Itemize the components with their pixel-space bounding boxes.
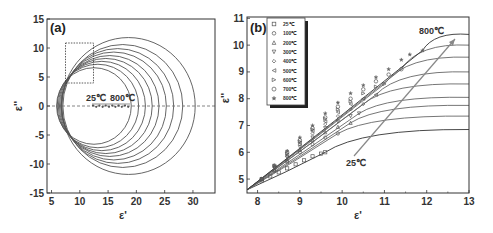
marker-triangle-down [349,115,352,118]
data-point [114,106,116,108]
x-tick-label: 15 [103,196,115,207]
annotation-800c: 800℃ [110,93,135,103]
panel-label: (b) [250,20,267,35]
y-axis-label: ε'' [12,100,24,111]
y-tick-label: 9 [238,66,244,77]
data-point [98,105,100,107]
x-tick-label: 10 [74,196,86,207]
y-tick-label: 10 [233,40,245,51]
data-point [118,105,120,107]
y-tick-label: 8 [238,93,244,104]
panel-label: (a) [50,20,66,35]
x-tick-label: 9 [297,196,303,207]
marker-star [362,83,366,87]
fit-curve-300℃ [247,97,469,190]
legend: 25℃100℃200℃300℃400℃500℃600℃700℃800℃ [267,18,308,108]
legend-label: 700℃ [283,86,297,92]
y-tick-label: 10 [33,43,45,54]
x-axis-label: ε' [354,209,362,221]
legend-label: 100℃ [283,30,297,36]
marker-star [374,75,378,78]
marker-hexagon [387,73,391,77]
legend-label: 300℃ [283,49,297,55]
y-tick-label: -5 [35,130,44,141]
marker-star [408,53,412,57]
x-tick-label: 13 [463,196,475,207]
x-axis-label: ε' [119,209,127,221]
y-tick-label: -15 [30,188,45,199]
panel-a: 25℃ 800℃ 51015202530-15-10-5051015 (a) ε… [12,14,215,222]
marker-triangle-right [374,85,377,88]
y-tick-label: 5 [238,174,244,185]
data-point [95,106,97,108]
legend-label: 500℃ [283,68,297,74]
x-tick-label: 10 [337,196,349,207]
data-point [105,105,107,107]
y-tick-label: 11 [233,13,244,24]
annotation-25c: 25℃ [346,158,366,168]
y-tick-label: -10 [30,159,45,170]
marker-hexagon [362,88,366,92]
legend-label: 800℃ [283,95,297,101]
panel-b: 800℃ 25℃ 25℃100℃200℃300℃400℃500℃600℃700℃… [219,13,475,221]
annotation-800c: 800℃ [419,26,444,36]
figure: 25℃ 800℃ 51015202530-15-10-5051015 (a) ε… [0,0,493,233]
x-tick-label: 12 [421,196,433,207]
y-tick-label: 0 [38,101,44,112]
fit-curve-200℃ [247,105,469,189]
fit-curve-100℃ [247,116,469,190]
legend-label: 200℃ [283,40,297,46]
y-tick-label: 7 [238,120,244,131]
legend-label: 25℃ [283,21,295,27]
marker-star [349,91,353,95]
marker-star [400,58,404,62]
legend-label: 600℃ [283,77,297,83]
y-tick-label: 5 [38,72,44,83]
marker-hexagon [374,80,378,84]
data-point [124,105,126,107]
x-tick-label: 11 [379,196,390,207]
data-point [108,106,110,108]
x-tick-label: 5 [49,196,55,207]
marker-hexagon [349,97,353,101]
data-point [92,105,94,107]
marker-triangle-right [362,92,365,95]
x-tick-label: 8 [255,196,261,207]
marker-square [286,167,289,170]
marker-hexagon [336,105,340,109]
marker-square [311,155,314,158]
x-tick-label: 20 [131,196,143,207]
x-tick-label: 25 [159,196,171,207]
marker-star [323,112,327,116]
legend-label: 400℃ [283,58,297,64]
y-tick-label: 15 [33,14,45,25]
data-point [121,106,123,108]
y-tick-label: 6 [238,147,244,158]
data-point [127,106,129,108]
x-tick-label: 30 [187,196,199,207]
marker-square [302,159,305,162]
y-axis-label: ε'' [219,92,231,103]
marker-star [387,67,391,71]
data-point [111,105,113,107]
marker-star [336,101,340,105]
data-point [102,106,104,108]
annotation-25c: 25℃ [86,93,106,103]
marker-square [294,163,297,166]
